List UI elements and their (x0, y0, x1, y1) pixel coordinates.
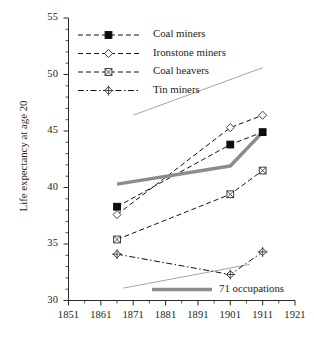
crossed-square-marker (227, 191, 234, 198)
series-markers (112, 111, 268, 279)
x-tick-label: 1921 (279, 309, 311, 320)
open-diamond-marker (259, 111, 267, 119)
legend-item-label[interactable]: Coal miners (153, 27, 205, 39)
series-lines (117, 115, 263, 274)
y-tick-label: 55 (0, 11, 58, 22)
y-tick-label: 50 (0, 68, 58, 79)
open-diamond-marker (226, 124, 234, 132)
open-diamond-marker (113, 211, 121, 219)
x-tick-label: 1851 (53, 309, 85, 320)
x-tick-label: 1861 (85, 309, 117, 320)
legend-item-label[interactable]: Tin miners (153, 83, 200, 95)
plus-diamond-marker (225, 270, 235, 280)
chart-figure: Life expectancy at age 20 30354045505518… (0, 0, 314, 340)
y-tick-label: 35 (0, 237, 58, 248)
plus-diamond-marker (104, 86, 114, 96)
y-tick-label: 45 (0, 124, 58, 135)
x-axis-ticks (69, 301, 296, 306)
open-diamond-marker (105, 50, 113, 58)
x-tick-label: 1891 (182, 309, 214, 320)
legend-item-label[interactable]: Coal heavers (153, 64, 209, 76)
x-tick-label: 1871 (117, 309, 149, 320)
y-tick-label: 40 (0, 181, 58, 192)
series-line (117, 115, 263, 214)
inset-legend-label[interactable]: 71 occupations (219, 282, 284, 294)
x-tick-label: 1911 (247, 309, 279, 320)
crossed-square-marker (114, 236, 121, 243)
legend-item-label[interactable]: Ironstone miners (153, 46, 226, 58)
series-line (117, 252, 263, 275)
legend-swatches (78, 32, 139, 96)
filled-square-marker (227, 141, 234, 148)
filled-square-marker (259, 129, 266, 136)
plus-diamond-marker (112, 249, 122, 259)
filled-square-marker (105, 32, 112, 39)
x-tick-label: 1901 (214, 309, 246, 320)
plus-diamond-marker (258, 247, 268, 257)
y-tick-label: 30 (0, 294, 58, 305)
filled-square-marker (114, 203, 121, 210)
x-tick-label: 1881 (150, 309, 182, 320)
series-line (117, 132, 263, 207)
crossed-square-marker (259, 167, 266, 174)
crossed-square-marker (105, 69, 112, 76)
reference-lines (124, 68, 263, 288)
y-axis-ticks (64, 18, 69, 301)
